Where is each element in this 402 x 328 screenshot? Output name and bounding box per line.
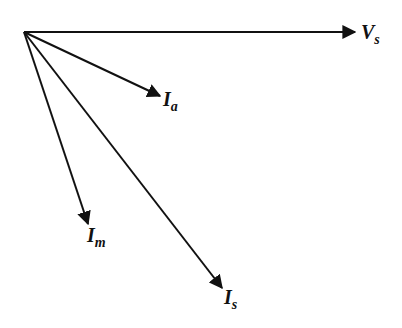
phasor-ia-label: Ia xyxy=(162,88,178,114)
phasor-im-line xyxy=(24,32,88,224)
phasor-ia-line xyxy=(24,32,160,96)
phasor-is: Is xyxy=(24,32,238,312)
phasor-vs-label: Vs xyxy=(361,21,380,47)
phasor-diagram: Vs Ia Im Is xyxy=(0,0,402,328)
phasor-is-label: Is xyxy=(223,286,238,312)
phasor-is-line xyxy=(24,32,222,288)
phasor-vs: Vs xyxy=(24,21,380,47)
phasor-im-label: Im xyxy=(86,224,106,250)
